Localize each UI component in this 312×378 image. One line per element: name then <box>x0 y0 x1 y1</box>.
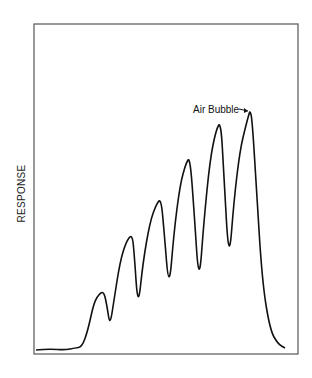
y-axis-label: RESPONSE <box>16 159 27 229</box>
response-curve <box>36 112 285 350</box>
chart-plot <box>0 0 312 378</box>
air-bubble-annotation: Air Bubble <box>193 104 239 115</box>
plot-frame <box>34 24 298 354</box>
